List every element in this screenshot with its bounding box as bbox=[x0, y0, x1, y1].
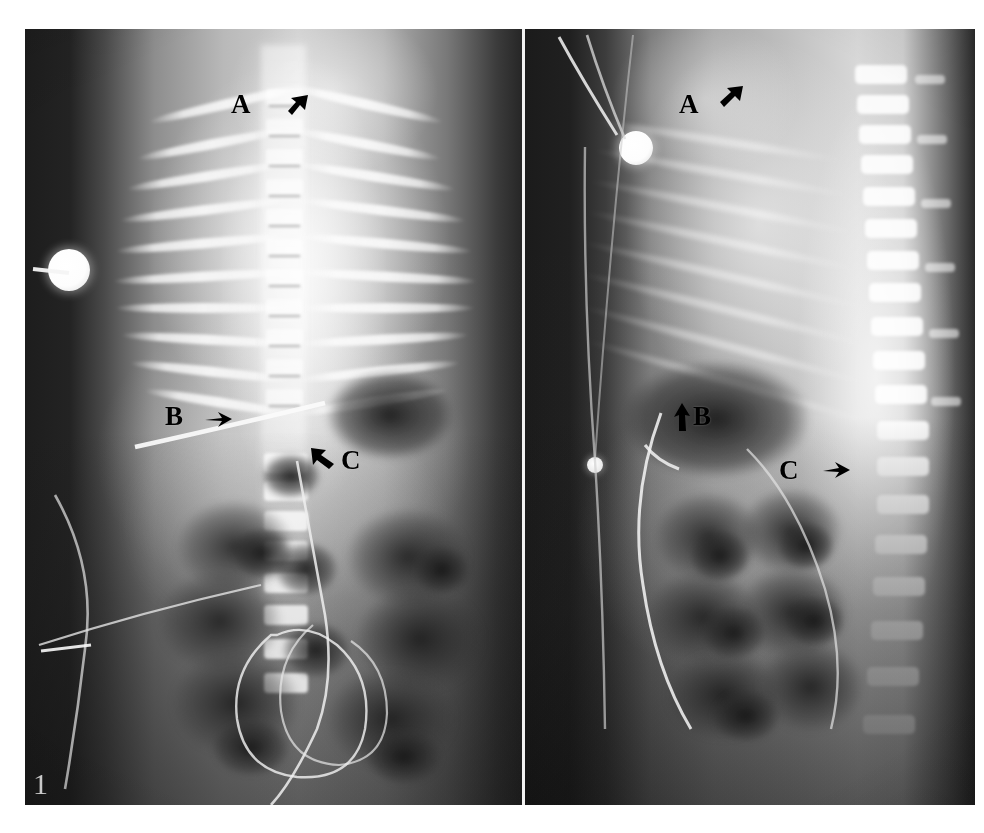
bowel-gas-loop bbox=[777, 521, 835, 571]
arrow-right-icon-ap-b bbox=[203, 407, 235, 431]
bowel-gas-loop bbox=[365, 729, 443, 785]
bowel-gas-loop bbox=[231, 527, 293, 579]
arrow-right-icon-lat-c bbox=[821, 457, 853, 483]
vertebra bbox=[863, 187, 915, 206]
rib bbox=[297, 303, 475, 313]
spinous-process bbox=[917, 135, 947, 144]
panel-lateral: A B C bbox=[525, 29, 975, 805]
vertebra bbox=[867, 251, 919, 270]
vertebra bbox=[865, 219, 917, 238]
bowel-gas-loop bbox=[783, 595, 845, 647]
radiograph-figure: A B C bbox=[0, 0, 984, 833]
spinous-process bbox=[915, 75, 945, 84]
annotation-label-b-lat: B bbox=[693, 403, 711, 430]
vertebra bbox=[859, 125, 911, 144]
bowel-gas-loop bbox=[711, 689, 781, 743]
arrow-up-left-icon-ap-c bbox=[307, 443, 339, 471]
vertebra bbox=[266, 269, 303, 285]
arrow-up-right-icon-lat-a bbox=[717, 83, 747, 113]
bowel-gas-loop bbox=[701, 605, 767, 661]
annotation-label-b-ap: B bbox=[165, 403, 183, 430]
vertebra bbox=[266, 359, 303, 375]
vertebra bbox=[873, 351, 925, 370]
bowel-gas-loop bbox=[413, 545, 471, 595]
annotation-label-a-ap: A bbox=[231, 91, 251, 118]
arrow-up-icon-lat-b bbox=[671, 401, 695, 433]
vertebra bbox=[266, 119, 303, 135]
vertebra bbox=[266, 149, 303, 165]
panel-divider bbox=[522, 29, 525, 805]
figure-number: 1 bbox=[33, 769, 48, 799]
bowel-gas-loop bbox=[211, 719, 291, 777]
vertebra bbox=[266, 299, 303, 315]
spinous-process bbox=[929, 329, 959, 338]
vertebra bbox=[857, 95, 909, 114]
ecg-electrode bbox=[587, 457, 603, 473]
bowel-gas-loop bbox=[281, 621, 351, 679]
vertebra bbox=[861, 155, 913, 174]
ecg-electrode bbox=[619, 131, 653, 165]
vertebra bbox=[266, 209, 303, 225]
vertebra bbox=[871, 317, 923, 336]
vertebra bbox=[875, 385, 927, 404]
annotation-label-a-lat: A bbox=[679, 91, 699, 118]
annotation-label-c-lat: C bbox=[779, 457, 799, 484]
spinous-process bbox=[931, 397, 961, 406]
bowel-gas-loop bbox=[689, 529, 751, 583]
vertebra bbox=[266, 389, 303, 405]
vertebra bbox=[266, 329, 303, 345]
arrow-down-left-icon-ap-a bbox=[283, 91, 313, 121]
vertebra bbox=[869, 283, 921, 302]
spinous-process bbox=[925, 263, 955, 272]
vertebra bbox=[266, 179, 303, 195]
vertebra bbox=[855, 65, 907, 84]
annotation-label-c-ap: C bbox=[341, 447, 361, 474]
vertebra bbox=[266, 239, 303, 255]
panel-anteroposterior: A B C bbox=[25, 29, 522, 805]
spinous-process bbox=[921, 199, 951, 208]
radiograph-plate: A B C bbox=[25, 29, 975, 805]
ecg-electrode bbox=[48, 249, 90, 291]
